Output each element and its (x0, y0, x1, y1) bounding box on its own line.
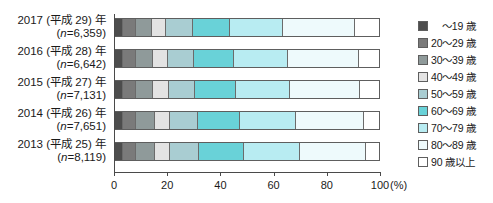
legend-item: 20～29 歳 (418, 34, 493, 51)
bar-segment (155, 112, 171, 129)
bar-segment (136, 19, 152, 36)
legend-item: ～19 歳 (418, 17, 493, 34)
legend-item: 80～89 歳 (418, 136, 493, 153)
x-axis-tick-label: 0 (111, 179, 117, 191)
legend-label: 90 歳以上 (431, 154, 474, 169)
legend-swatch (418, 89, 428, 99)
legend-swatch (418, 55, 428, 65)
bar-segment (364, 112, 379, 129)
plot-area (114, 14, 380, 172)
legend-swatch (418, 123, 428, 133)
bar-segment (153, 50, 168, 67)
x-axis-tick-label: 40 (214, 179, 226, 191)
x-axis-tick (274, 172, 275, 176)
legend-swatch (418, 140, 428, 150)
bar-segment (244, 143, 299, 160)
bar-row (114, 18, 380, 37)
y-axis-label: 2016 (平成 28) 年(n=6,642) (0, 45, 106, 71)
legend-item: 40～49 歳 (418, 68, 493, 85)
stacked-bar (114, 80, 380, 99)
stacked-bar-chart-figure: 2017 (平成 29) 年(n=6,359)2016 (平成 28) 年(n=… (0, 0, 493, 203)
x-axis-tick (220, 172, 221, 176)
bar-rows (114, 14, 380, 172)
bar-segment (115, 50, 123, 67)
legend: ～19 歳20～29 歳30～39 歳40～49 歳50～59 歳60～69 歳… (418, 17, 493, 170)
legend-label: 40～49 歳 (431, 69, 476, 84)
bar-row (114, 80, 380, 99)
bar-row (114, 49, 380, 68)
bar-segment (290, 81, 360, 98)
bar-segment (115, 19, 123, 36)
bar-segment (170, 112, 198, 129)
y-axis-label: 2014 (平成 26) 年(n=7,651) (0, 107, 106, 133)
bar-segment (366, 143, 379, 160)
bar-segment (355, 19, 379, 36)
stacked-bar (114, 49, 380, 68)
bar-segment (166, 19, 192, 36)
bar-segment (123, 143, 136, 160)
bar-row (114, 142, 380, 161)
bar-segment (240, 112, 295, 129)
legend-item: 30～39 歳 (418, 51, 493, 68)
legend-label: 20～29 歳 (431, 35, 476, 50)
bar-segment (193, 19, 230, 36)
bar-segment (199, 143, 244, 160)
bar-row (114, 111, 380, 130)
legend-swatch (418, 21, 428, 31)
bar-segment (194, 50, 234, 67)
bar-segment (136, 50, 153, 67)
bar-segment (115, 112, 123, 129)
bar-segment (198, 112, 240, 129)
legend-swatch (418, 38, 428, 48)
bar-segment (153, 81, 169, 98)
stacked-bar (114, 111, 380, 130)
bar-segment (236, 81, 290, 98)
x-axis-line (114, 172, 381, 173)
bar-segment (170, 143, 199, 160)
bar-segment (136, 112, 154, 129)
bar-segment (155, 143, 171, 160)
bar-segment (115, 81, 123, 98)
y-axis-label: 2013 (平成 25) 年(n=8,119) (0, 138, 106, 164)
x-axis-tick-label: 80 (321, 179, 333, 191)
legend-label: 50～59 歳 (431, 86, 476, 101)
bar-segment (136, 143, 154, 160)
bar-segment (283, 19, 356, 36)
legend-swatch (418, 157, 428, 167)
y-axis-label: 2017 (平成 29) 年(n=6,359) (0, 14, 106, 40)
bar-segment (296, 112, 365, 129)
x-axis-tick (114, 172, 115, 176)
bar-segment (123, 112, 136, 129)
legend-item: 50～59 歳 (418, 85, 493, 102)
bar-segment (300, 143, 366, 160)
legend-swatch (418, 106, 428, 116)
legend-label: 70～79 歳 (431, 120, 476, 135)
x-axis-tick (167, 172, 168, 176)
bar-segment (234, 50, 288, 67)
x-axis-tick-label: 100 (371, 179, 389, 191)
legend-item: 60～69 歳 (418, 102, 493, 119)
legend-swatch (418, 72, 428, 82)
bar-segment (123, 50, 136, 67)
legend-label: 30～39 歳 (431, 52, 476, 67)
x-axis-tick-label: 20 (161, 179, 173, 191)
bar-segment (136, 81, 153, 98)
x-axis-tick (327, 172, 328, 176)
y-axis-line (114, 14, 115, 172)
bar-segment (123, 81, 136, 98)
bar-segment (152, 19, 167, 36)
legend-label: 60～69 歳 (431, 103, 476, 118)
legend-item: 70～79 歳 (418, 119, 493, 136)
bar-segment (115, 143, 123, 160)
stacked-bar (114, 18, 380, 37)
x-axis-tick (380, 172, 381, 176)
bar-segment (195, 81, 236, 98)
bar-segment (359, 50, 379, 67)
bar-segment (360, 81, 378, 98)
bar-segment (168, 50, 194, 67)
legend-label: 80～89 歳 (431, 137, 476, 152)
bar-segment (288, 50, 359, 67)
y-axis-label: 2015 (平成 27) 年(n=7,131) (0, 76, 106, 102)
x-axis-tick-label: 60 (267, 179, 279, 191)
bar-segment (169, 81, 195, 98)
